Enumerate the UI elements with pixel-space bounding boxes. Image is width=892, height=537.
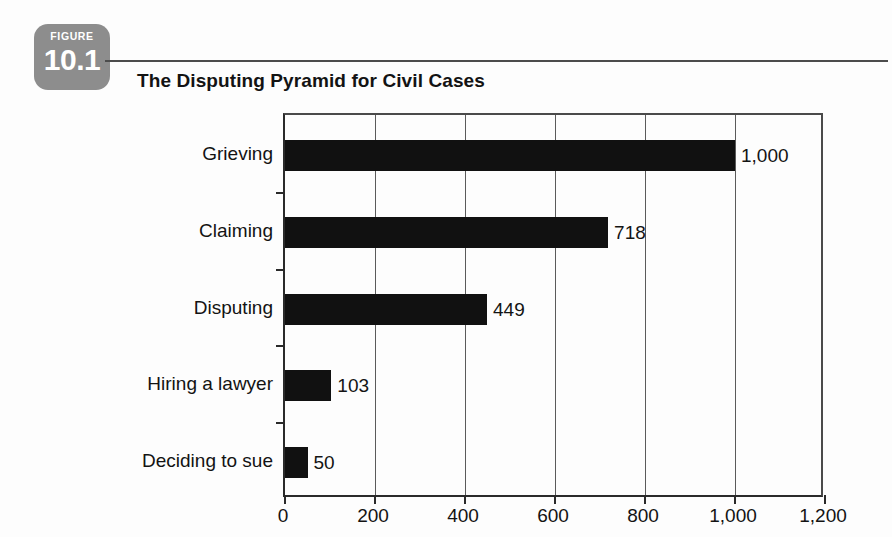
gridline-600 (555, 115, 556, 495)
x-tick-label: 1,000 (709, 505, 757, 527)
bar (285, 294, 487, 325)
y-tick-mark (276, 422, 285, 424)
x-tick-label: 600 (537, 505, 569, 527)
x-tick-mark-800 (644, 495, 646, 504)
y-tick-mark (276, 269, 285, 271)
bar-value-label: 1,000 (741, 140, 789, 171)
bar-chart: GrievingClaimingDisputingHiring a lawyer… (0, 0, 892, 537)
y-axis-category-labels: GrievingClaimingDisputingHiring a lawyer… (73, 113, 273, 497)
x-tick-label: 0 (278, 505, 289, 527)
bar-value-label: 449 (493, 294, 525, 325)
bar (285, 370, 331, 401)
bar-value-label: 103 (337, 370, 369, 401)
bar-value-label: 718 (614, 217, 646, 248)
x-tick-mark-1200 (824, 495, 826, 504)
bar (285, 140, 735, 171)
y-axis-category-label: Claiming (73, 215, 273, 246)
bar (285, 217, 608, 248)
gridline-800 (645, 115, 646, 495)
x-tick-label: 800 (627, 505, 659, 527)
y-tick-mark (276, 192, 285, 194)
x-tick-mark-200 (374, 495, 376, 504)
y-axis-category-label: Disputing (73, 292, 273, 323)
x-tick-label: 400 (447, 505, 479, 527)
y-axis-category-label: Hiring a lawyer (73, 368, 273, 399)
x-tick-mark-1000 (734, 495, 736, 504)
gridline-1000 (735, 115, 736, 495)
y-axis-category-label: Deciding to sue (73, 445, 273, 476)
bar-value-label: 50 (314, 447, 335, 478)
x-tick-mark-400 (464, 495, 466, 504)
x-axis-tick-labels: 02004006008001,0001,200 (283, 505, 823, 535)
bar (285, 447, 308, 478)
x-tick-mark-0 (284, 495, 286, 504)
x-tick-mark-600 (554, 495, 556, 504)
y-axis-category-label: Grieving (73, 138, 273, 169)
figure-page: FIGURE 10.1 The Disputing Pyramid for Ci… (0, 0, 892, 537)
plot-area: 1,00071844910350 (283, 113, 823, 497)
y-tick-mark (276, 345, 285, 347)
x-tick-label: 200 (357, 505, 389, 527)
x-tick-label: 1,200 (799, 505, 847, 527)
